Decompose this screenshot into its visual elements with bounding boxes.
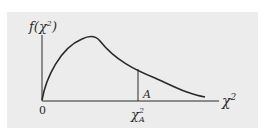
tail-area-label: A xyxy=(142,88,151,101)
y-axis-label: f(χ2) xyxy=(28,19,57,34)
chi-square-chart: f(χ2) χ2 0 χ2A A xyxy=(0,0,265,136)
origin-tick-label: 0 xyxy=(39,104,46,117)
density-curve xyxy=(42,37,205,100)
critical-value-label: χ2A xyxy=(130,106,145,124)
x-axis-label: χ2 xyxy=(221,92,236,109)
